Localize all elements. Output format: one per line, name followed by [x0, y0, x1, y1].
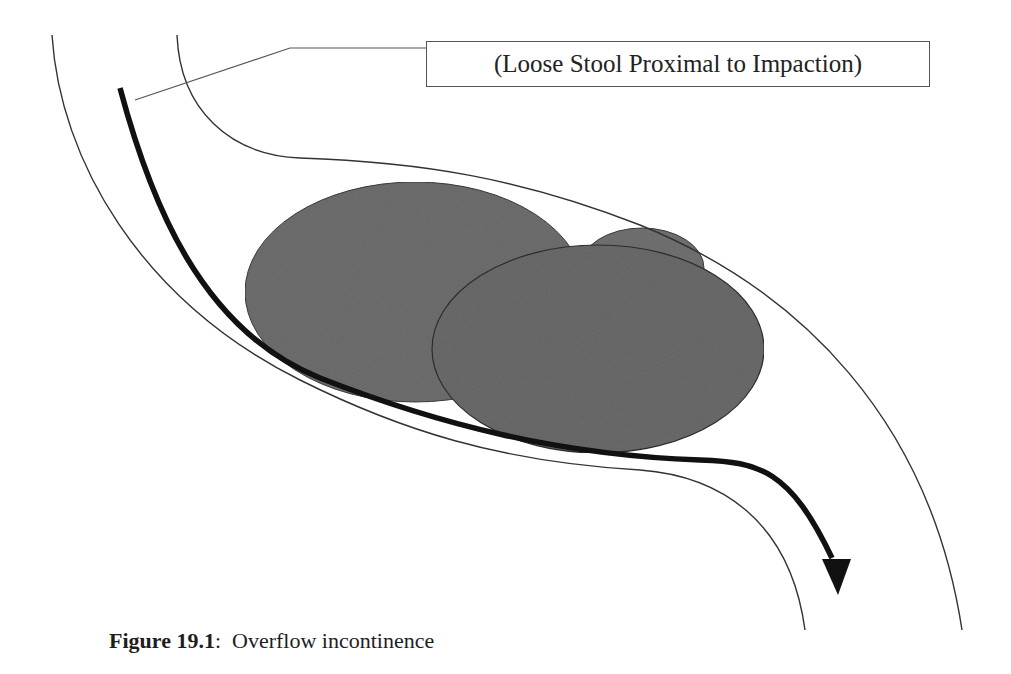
loose-stool-label: (Loose Stool Proximal to Impaction)	[426, 41, 930, 87]
caption-text: Overflow incontinence	[232, 628, 434, 653]
impaction-mass	[245, 182, 764, 453]
arrowhead-icon	[822, 559, 851, 595]
figure-number: Figure 19.1	[109, 628, 215, 653]
loose-stool-label-text: (Loose Stool Proximal to Impaction)	[494, 50, 862, 78]
caption-separator: :	[215, 628, 221, 653]
impaction-ellipse-right	[432, 245, 764, 453]
figure-caption: Figure 19.1: Overflow incontinence	[109, 628, 434, 654]
overflow-incontinence-diagram	[0, 0, 1011, 674]
